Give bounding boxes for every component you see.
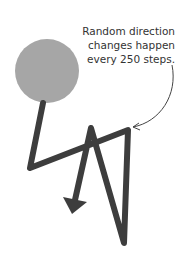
annotation-line: every 250 steps. [55, 52, 175, 66]
annotation-line: changes happen [55, 38, 175, 52]
annotation-text: Random direction changes happen every 25… [55, 24, 175, 66]
annotation-pointer-line [133, 65, 173, 127]
annotation-line: Random direction [55, 24, 175, 38]
random-walk-path [30, 103, 128, 243]
random-walk-diagram: Random direction changes happen every 25… [0, 0, 189, 261]
path-arrowhead-icon [63, 197, 87, 214]
